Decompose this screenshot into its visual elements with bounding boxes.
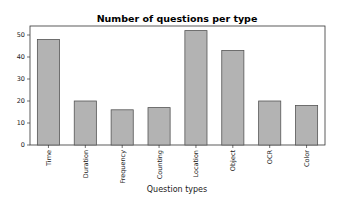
bar-chart: Number of questions per type 01020304050… (0, 0, 342, 202)
x-axis: TimeDurationFrequencyCountingLocationObj… (45, 145, 311, 184)
bar-object (222, 50, 244, 145)
y-tick-label: 40 (17, 53, 25, 61)
x-tick-label: Frequency (119, 150, 127, 184)
bar-location (185, 31, 207, 145)
x-tick-label: Color (303, 150, 311, 167)
bar-time (37, 39, 59, 145)
y-tick-label: 50 (17, 31, 25, 39)
plot-area (30, 26, 325, 145)
bar-frequency (111, 110, 133, 145)
x-tick-label: Duration (82, 150, 90, 178)
y-tick-label: 0 (21, 141, 25, 149)
x-tick-label: OCR (266, 150, 274, 165)
y-tick-label: 20 (17, 97, 25, 105)
bar-duration (74, 101, 96, 145)
x-axis-label: Question types (147, 185, 207, 194)
chart-title: Number of questions per type (97, 13, 258, 24)
x-tick-label: Time (45, 150, 53, 167)
y-axis: 01020304050 (17, 31, 30, 149)
bar-counting (148, 108, 170, 145)
bar-ocr (259, 101, 281, 145)
x-tick-label: Counting (156, 150, 164, 179)
bar-color (296, 105, 318, 145)
x-tick-label: Object (229, 150, 237, 172)
y-tick-label: 30 (17, 75, 25, 83)
x-tick-label: Location (192, 150, 200, 178)
y-tick-label: 10 (17, 119, 25, 127)
